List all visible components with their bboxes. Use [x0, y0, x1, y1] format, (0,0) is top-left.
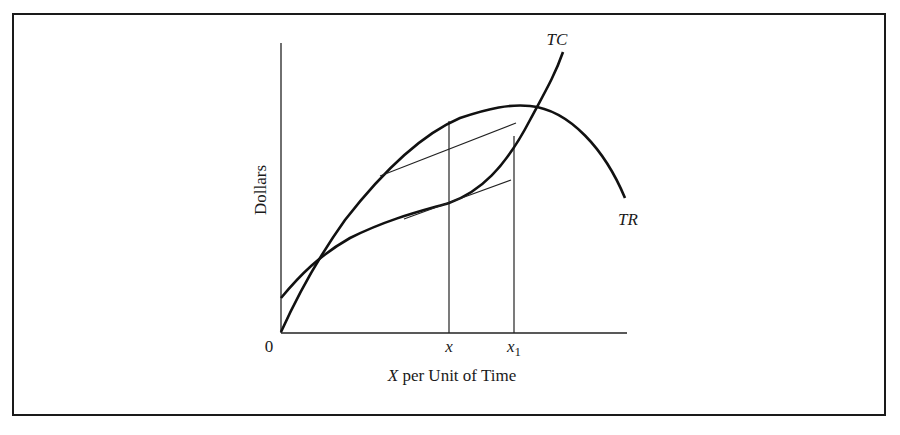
- economics-diagram: TC TR 0 x x1 X per Unit of Time Dollars: [0, 0, 900, 435]
- tr-curve: [281, 106, 625, 333]
- x-axis-label: X per Unit of Time: [387, 366, 516, 385]
- origin-label: 0: [265, 337, 274, 356]
- y-axis-label: Dollars: [251, 165, 270, 215]
- tangent-line-tc: [404, 180, 511, 219]
- tc-curve: [281, 52, 563, 298]
- tr-label: TR: [618, 210, 638, 229]
- x1-tick-label: x1: [506, 337, 521, 359]
- x-tick-label: x: [444, 337, 453, 356]
- tangent-line-tr: [380, 123, 516, 176]
- tc-label: TC: [547, 30, 568, 49]
- x-axis-label-rest: per Unit of Time: [398, 366, 516, 385]
